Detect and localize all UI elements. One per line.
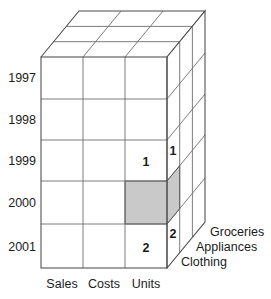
cell-value-side-1999: 1 (170, 144, 177, 158)
row-label-2001: 2001 (8, 240, 36, 254)
highlight-front-face[interactable] (125, 181, 167, 224)
depth-label-groceries: Groceries (210, 225, 264, 239)
row-label-1998: 1998 (8, 113, 36, 127)
column-axis-labels: Sales Costs Units (46, 277, 160, 291)
row-axis-labels: 1997 1998 1999 2000 2001 (8, 71, 36, 254)
column-label-sales: Sales (46, 277, 77, 291)
row-label-1997: 1997 (8, 71, 36, 85)
cell-value-front-2001-units: 2 (143, 241, 150, 255)
cell-value-side-2001: 2 (170, 227, 177, 241)
depth-label-clothing: Clothing (181, 255, 227, 269)
column-label-costs: Costs (88, 277, 120, 291)
row-label-2000: 2000 (8, 196, 36, 210)
cell-value-front-1999-units: 1 (143, 155, 150, 169)
olap-cube-figure: 1997 1998 1999 2000 2001 Sales Costs Uni… (0, 0, 271, 299)
row-label-1999: 1999 (8, 154, 36, 168)
depth-label-appliances: Appliances (196, 240, 257, 254)
column-label-units: Units (132, 277, 160, 291)
